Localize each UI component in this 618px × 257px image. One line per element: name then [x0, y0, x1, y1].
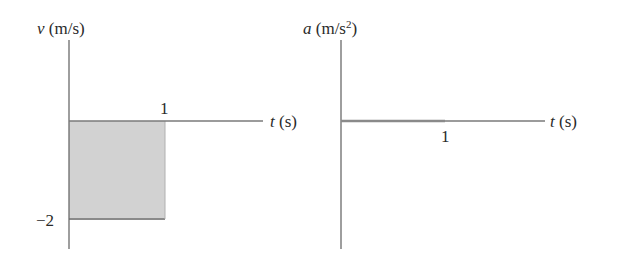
t-axis-label: t (s): [550, 112, 577, 131]
shaded-area: [69, 121, 165, 219]
x-tick-1: 1: [160, 99, 169, 118]
v-axis-label: v (m/s): [37, 19, 85, 38]
diagram: v (m/s) t (s) 1 −2 a (m/s2) t (s) 1: [0, 0, 618, 257]
a-axis-label: a (m/s2): [303, 18, 357, 38]
acceleration-graph: a (m/s2) t (s) 1: [303, 18, 577, 249]
t-axis-label: t (s): [270, 112, 297, 131]
y-tick-neg2: −2: [36, 211, 54, 230]
x-tick-1: 1: [441, 127, 450, 146]
velocity-graph: v (m/s) t (s) 1 −2: [36, 19, 297, 249]
